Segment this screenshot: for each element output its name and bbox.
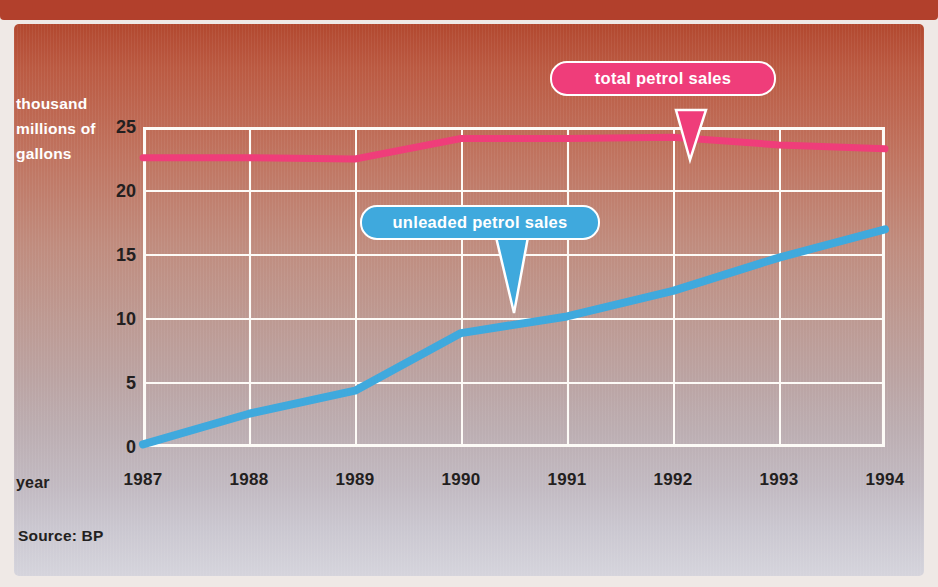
title-banner: Petrol sales: total and unleaded (0, 0, 938, 20)
x-tick-1988: 1988 (229, 470, 268, 490)
x-tick-1992: 1992 (653, 470, 692, 490)
total-callout-tail (676, 110, 712, 162)
x-tick-1987: 1987 (123, 470, 162, 490)
x-tick-1993: 1993 (759, 470, 798, 490)
y-tick-0: 0 (96, 437, 136, 458)
page-title: Petrol sales: total and unleaded (0, 0, 938, 4)
y-tick-10: 10 (96, 309, 136, 330)
callout-unleaded-label: unleaded petrol sales (392, 213, 567, 232)
y-tick-25: 25 (96, 117, 136, 138)
y-axis-ticks: 0 5 10 15 20 25 (88, 127, 136, 447)
y-axis-title-line-1: thousand (16, 91, 121, 116)
line-total-petrol-sales (143, 137, 885, 159)
x-axis-ticks: 1987 1988 1989 1990 1991 1992 1993 1994 (143, 470, 885, 496)
source-note: Source: BP (18, 527, 104, 545)
x-axis-title: year (16, 474, 50, 492)
callout-unleaded-petrol-sales[interactable]: unleaded petrol sales (360, 205, 600, 240)
callout-total-label: total petrol sales (595, 69, 732, 88)
callout-total-petrol-sales[interactable]: total petrol sales (550, 61, 776, 96)
x-tick-1994: 1994 (865, 470, 904, 490)
y-tick-5: 5 (96, 373, 136, 394)
y-tick-15: 15 (96, 245, 136, 266)
y-tick-20: 20 (96, 181, 136, 202)
x-tick-1989: 1989 (335, 470, 374, 490)
x-tick-1991: 1991 (547, 470, 586, 490)
x-tick-1990: 1990 (441, 470, 480, 490)
chart-page: Petrol sales: total and unleaded thousan… (0, 0, 938, 587)
unleaded-callout-tail (496, 237, 536, 315)
